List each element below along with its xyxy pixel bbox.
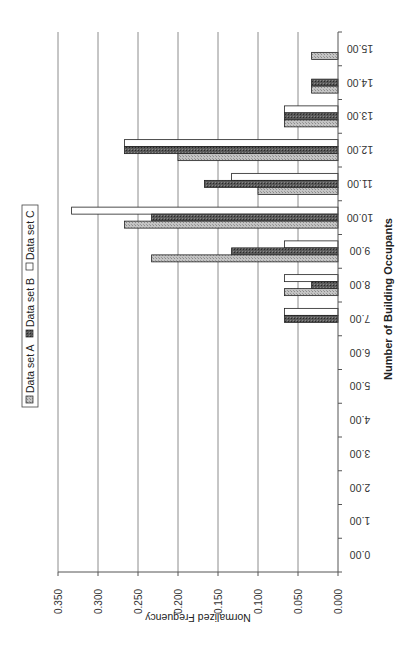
x-tick-label: 2.00: [350, 482, 371, 494]
x-tick-label: 9.00: [350, 245, 371, 257]
y-tick-label: 0.150: [213, 589, 224, 614]
bar-data-set-b: [124, 147, 338, 154]
tick-labels: 0.0000.0500.1000.1500.2000.2500.3000.350…: [53, 43, 374, 614]
x-axis-title: Number of Building Occupants: [382, 218, 394, 380]
x-tick-label: 13.00: [347, 110, 373, 122]
bar-data-set-a: [284, 289, 338, 296]
bar-data-set-b: [284, 113, 338, 120]
legend-swatch-icon: [26, 263, 33, 270]
x-tick-label: 0.00: [350, 549, 371, 561]
chart: 0.0000.0500.1000.1500.2000.2500.3000.350…: [0, 0, 413, 650]
x-tick-label: 15.00: [347, 43, 373, 55]
y-tick-label: 0.200: [173, 589, 184, 614]
x-tick-label: 14.00: [347, 77, 373, 89]
y-tick-label: 0.100: [253, 589, 264, 614]
x-tick-label: 5.00: [350, 380, 371, 392]
legend-label: Data set B: [24, 278, 36, 327]
bar-data-set-a: [152, 255, 338, 262]
y-tick-label: 0.250: [133, 589, 144, 614]
legend: Data set AData set BData set C: [22, 205, 38, 407]
x-tick-label: 6.00: [350, 347, 371, 359]
bar-data-set-c: [284, 275, 338, 282]
bar-data-set-c: [284, 308, 338, 315]
x-tick-label: 1.00: [350, 515, 371, 527]
bar-data-set-a: [178, 154, 338, 161]
y-axis-title: Normalized Frequency: [144, 612, 250, 624]
x-tick-label: 3.00: [350, 448, 371, 460]
bar-data-set-b: [312, 79, 338, 86]
bar-data-set-c: [232, 173, 338, 180]
legend-swatch-icon: [26, 396, 33, 403]
bar-data-set-b: [152, 214, 338, 221]
gridlines: [58, 32, 298, 572]
x-tick-label: 11.00: [347, 178, 373, 190]
bar-data-set-c: [284, 241, 338, 248]
x-tick-label: 7.00: [350, 313, 371, 325]
bar-data-set-b: [284, 315, 338, 322]
bar-data-set-c: [72, 207, 338, 214]
bar-data-set-b: [312, 282, 338, 289]
bar-chart: 0.0000.0500.1000.1500.2000.2500.3000.350…: [0, 0, 413, 650]
legend-label: Data set A: [24, 345, 36, 393]
bar-data-set-b: [232, 248, 338, 255]
bar-data-set-a: [312, 52, 338, 59]
bar-data-set-a: [124, 221, 338, 228]
x-tick-label: 4.00: [350, 414, 371, 426]
x-tick-label: 12.00: [347, 144, 373, 156]
x-tick-label: 8.00: [350, 279, 371, 291]
legend-swatch-icon: [26, 330, 33, 337]
bar-data-set-a: [284, 120, 338, 127]
bar-data-set-b: [204, 180, 338, 187]
bar-data-set-a: [258, 187, 338, 194]
bar-data-set-a: [312, 86, 338, 93]
y-tick-label: 0.000: [333, 589, 344, 614]
y-tick-label: 0.350: [53, 589, 64, 614]
x-tick-label: 10.00: [347, 212, 373, 224]
y-tick-label: 0.050: [293, 589, 304, 614]
y-tick-label: 0.300: [93, 589, 104, 614]
bar-data-set-c: [284, 106, 338, 113]
bar-data-set-c: [124, 140, 338, 147]
legend-label: Data set C: [24, 210, 36, 260]
